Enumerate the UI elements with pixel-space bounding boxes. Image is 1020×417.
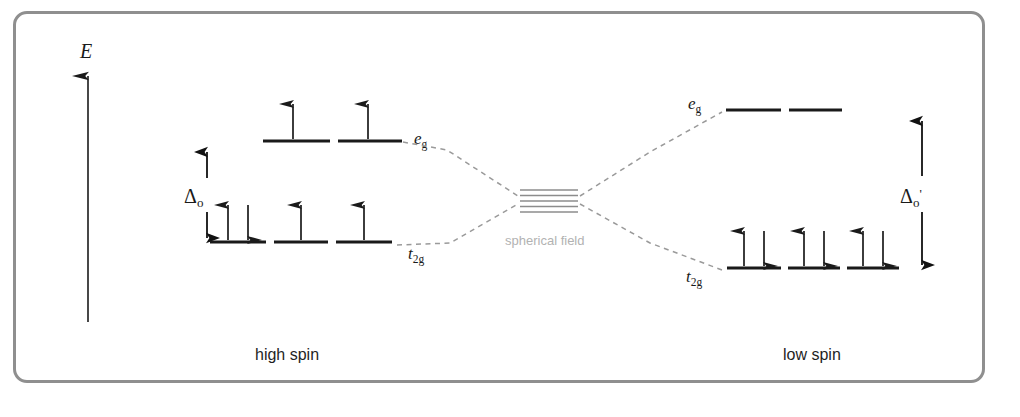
eg-subscript: g (696, 103, 702, 116)
high-spin-delta-label: Δo (184, 185, 203, 210)
electron-pair (744, 231, 764, 266)
t2g-subscript: 2g (691, 276, 703, 289)
high-spin-eg-group: eg (263, 104, 428, 151)
svg-text:t2g: t2g (686, 267, 702, 289)
energy-axis-label: E (79, 40, 92, 62)
delta-subscript: o (197, 195, 204, 210)
delta-symbol: Δ (900, 185, 913, 207)
high-spin-t2g-group: t2g (210, 205, 424, 266)
spherical-field-group: spherical field (505, 190, 585, 248)
electron-pair (863, 231, 883, 266)
svg-text:eg: eg (688, 94, 702, 116)
connector-t2g-left (397, 204, 518, 245)
diagram-canvas: E Δo eg (0, 0, 1020, 417)
electron-pair (804, 231, 824, 266)
connector-eg-right (580, 112, 722, 196)
high-spin-caption: high spin (255, 346, 319, 363)
connector-t2g-right (580, 204, 722, 270)
connector-eg-left (403, 142, 518, 196)
svg-text:eg: eg (414, 129, 428, 151)
connector-lines-right (580, 112, 722, 270)
low-spin-t2g-group: t2g (686, 231, 899, 289)
electron-pair (228, 205, 248, 240)
low-spin-delta-label: Δo' (900, 185, 922, 210)
connector-lines-left (397, 142, 518, 245)
svg-text:Δo: Δo (184, 185, 203, 210)
low-spin-eg-group: eg (688, 94, 842, 116)
crystal-field-splitting-figure: E Δo eg (0, 0, 1020, 417)
low-spin-caption: low spin (783, 346, 841, 363)
energy-axis: E (79, 40, 92, 322)
t2g-subscript: 2g (413, 253, 425, 266)
spherical-field-label: spherical field (505, 233, 585, 248)
svg-text:t2g: t2g (408, 244, 424, 266)
svg-text:Δo': Δo' (900, 185, 922, 210)
delta-symbol: Δ (184, 185, 197, 207)
delta-prime: ' (919, 186, 921, 201)
eg-subscript: g (422, 138, 428, 151)
